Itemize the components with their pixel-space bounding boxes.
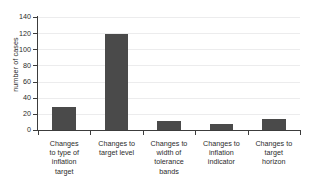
plot-area: [38, 17, 300, 130]
x-axis-tick: [248, 131, 249, 135]
bar: [105, 34, 129, 130]
x-axis-tick: [38, 131, 39, 135]
gridline: [38, 65, 300, 66]
category-label-line: Changes: [38, 139, 90, 148]
gridline: [38, 17, 300, 18]
bar: [210, 124, 234, 130]
y-axis-tick: [33, 49, 37, 50]
category-label-line: Changes to: [195, 139, 247, 148]
x-axis-tick: [143, 131, 144, 135]
y-axis-tick-label: 40: [0, 94, 31, 101]
gridline: [38, 82, 300, 83]
y-axis-tick: [33, 98, 37, 99]
category-label-line: Changes to: [143, 139, 195, 148]
y-axis-tick-label: 100: [0, 46, 31, 53]
gridline: [38, 33, 300, 34]
y-axis-tick-label: 80: [0, 62, 31, 69]
category-label-line: indicator: [195, 157, 247, 166]
category-label-line: target level: [90, 148, 142, 157]
y-axis-tick-label: 0: [0, 126, 31, 133]
y-axis-tick-label: 60: [0, 78, 31, 85]
category-label-line: width of: [143, 148, 195, 157]
x-axis-category-label: Changesto type ofinflationtarget: [38, 139, 90, 176]
category-label-line: to type of: [38, 148, 90, 157]
y-axis-tick: [33, 114, 37, 115]
category-label-line: target: [248, 148, 300, 157]
x-axis-line: [37, 130, 301, 131]
y-axis-tick-label: 140: [0, 13, 31, 20]
y-axis-tick: [33, 65, 37, 66]
x-axis-category-label: Changes totargethorizon: [248, 139, 300, 167]
gridline: [38, 49, 300, 50]
y-axis-tick-label: 120: [0, 30, 31, 37]
y-axis-tick: [33, 33, 37, 34]
x-axis-category-label: Changes toinflationindicator: [195, 139, 247, 167]
category-label-line: Changes to: [90, 139, 142, 148]
bar: [52, 107, 76, 130]
x-axis-category-label: Changes towidth oftolerancebands: [143, 139, 195, 176]
gridline: [38, 98, 300, 99]
category-label-line: tolerance: [143, 157, 195, 166]
y-axis-tick: [33, 82, 37, 83]
y-axis-tick: [33, 17, 37, 18]
x-axis-tick: [90, 131, 91, 135]
bar: [157, 121, 181, 130]
category-label-line: horizon: [248, 157, 300, 166]
category-label-line: Changes to: [248, 139, 300, 148]
x-axis-tick: [195, 131, 196, 135]
x-axis-tick: [300, 131, 301, 135]
category-label-line: inflation: [38, 157, 90, 166]
category-label-line: inflation: [195, 148, 247, 157]
category-label-line: target: [38, 167, 90, 176]
y-axis-tick-label: 20: [0, 110, 31, 117]
x-axis-category-label: Changes totarget level: [90, 139, 142, 157]
category-label-line: bands: [143, 167, 195, 176]
bar: [262, 119, 286, 130]
bar-chart: number of cases 020406080100120140 Chang…: [0, 0, 313, 189]
gridline: [38, 114, 300, 115]
y-axis-tick: [33, 130, 37, 131]
